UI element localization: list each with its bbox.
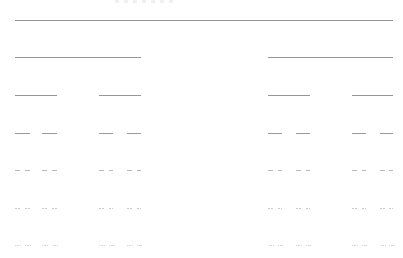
segment bbox=[393, 245, 394, 246]
segment bbox=[112, 208, 113, 209]
segment bbox=[383, 208, 385, 209]
segment bbox=[296, 133, 310, 134]
segment bbox=[15, 208, 17, 209]
segment bbox=[310, 245, 311, 246]
segment bbox=[296, 245, 297, 246]
segment bbox=[99, 170, 104, 171]
segment bbox=[28, 208, 30, 209]
segment bbox=[15, 95, 57, 96]
segment bbox=[42, 245, 43, 246]
segment bbox=[99, 95, 141, 96]
segment bbox=[127, 208, 129, 209]
segment bbox=[99, 208, 101, 209]
segment bbox=[15, 20, 393, 21]
segment bbox=[282, 245, 283, 246]
segment bbox=[109, 170, 113, 171]
segment bbox=[380, 170, 385, 171]
segment bbox=[392, 208, 393, 209]
segment bbox=[140, 208, 141, 209]
segment bbox=[109, 208, 111, 209]
segment bbox=[362, 245, 363, 246]
segment bbox=[132, 245, 133, 246]
segment bbox=[268, 170, 273, 171]
segment bbox=[306, 208, 308, 209]
segment bbox=[380, 245, 381, 246]
segment bbox=[273, 245, 274, 246]
segment bbox=[42, 208, 44, 209]
segment bbox=[45, 208, 47, 209]
segment bbox=[278, 170, 282, 171]
segment bbox=[389, 170, 393, 171]
segment bbox=[42, 170, 47, 171]
segment bbox=[20, 245, 21, 246]
segment bbox=[355, 208, 357, 209]
segment bbox=[301, 245, 302, 246]
segment bbox=[25, 245, 26, 246]
segment bbox=[299, 208, 301, 209]
segment bbox=[306, 245, 307, 246]
segment bbox=[109, 245, 110, 246]
segment bbox=[352, 133, 366, 134]
segment bbox=[102, 208, 104, 209]
segment bbox=[25, 208, 27, 209]
segment bbox=[352, 170, 357, 171]
segment bbox=[25, 170, 30, 171]
segment bbox=[352, 245, 353, 246]
segment bbox=[278, 208, 280, 209]
segment bbox=[52, 245, 53, 246]
segment bbox=[127, 170, 132, 171]
segment bbox=[365, 208, 366, 209]
segment bbox=[309, 208, 310, 209]
segment bbox=[130, 208, 132, 209]
segment bbox=[30, 245, 31, 246]
segment bbox=[52, 170, 57, 171]
segment bbox=[362, 208, 364, 209]
segment bbox=[15, 133, 30, 134]
segment bbox=[137, 170, 141, 171]
segment bbox=[104, 245, 105, 246]
segment bbox=[296, 208, 298, 209]
segment bbox=[137, 245, 138, 246]
segment bbox=[127, 245, 128, 246]
segment bbox=[385, 245, 386, 246]
segment bbox=[268, 208, 270, 209]
segment bbox=[268, 245, 269, 246]
segment bbox=[127, 133, 141, 134]
segment bbox=[52, 208, 54, 209]
segment bbox=[57, 245, 58, 246]
segment bbox=[268, 133, 282, 134]
segment bbox=[352, 208, 354, 209]
segment bbox=[389, 245, 390, 246]
segment bbox=[15, 245, 16, 246]
cantor-set-diagram bbox=[0, 0, 403, 258]
segment bbox=[99, 245, 100, 246]
segment bbox=[18, 208, 20, 209]
segment bbox=[42, 133, 57, 134]
segment bbox=[380, 133, 393, 134]
segment bbox=[113, 245, 114, 246]
segment bbox=[55, 208, 57, 209]
segment bbox=[357, 245, 358, 246]
segment bbox=[366, 245, 367, 246]
segment bbox=[296, 170, 301, 171]
segment bbox=[278, 245, 279, 246]
segment bbox=[362, 170, 366, 171]
segment bbox=[281, 208, 282, 209]
segment bbox=[268, 57, 393, 58]
segment bbox=[380, 208, 382, 209]
segment bbox=[15, 170, 20, 171]
segment bbox=[99, 133, 113, 134]
cropped-caption bbox=[115, 0, 175, 3]
segment bbox=[271, 208, 273, 209]
segment bbox=[141, 245, 142, 246]
segment bbox=[389, 208, 391, 209]
segment bbox=[15, 57, 141, 58]
segment bbox=[306, 170, 310, 171]
segment bbox=[47, 245, 48, 246]
segment bbox=[268, 95, 310, 96]
segment bbox=[137, 208, 139, 209]
segment bbox=[352, 95, 393, 96]
